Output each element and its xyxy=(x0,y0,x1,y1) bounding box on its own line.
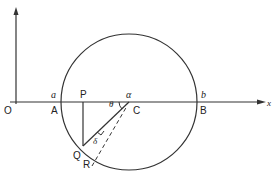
center-c-label: C xyxy=(133,105,140,116)
point-r-label: R xyxy=(83,159,90,170)
point-a-label: A xyxy=(51,105,58,116)
point-q-label: Q xyxy=(73,150,81,161)
y-axis xyxy=(14,7,19,104)
x-axis xyxy=(10,100,266,105)
point-p-label: P xyxy=(80,89,87,100)
segment-rc-dashed xyxy=(92,106,127,166)
delta-label: δ xyxy=(93,136,98,146)
y-axis-arrow-icon xyxy=(14,7,19,15)
x-axis-label: x xyxy=(266,98,271,108)
circle-geometry-diagram: O x a A P θ α C b B δ Q R xyxy=(0,0,274,176)
b-coord-label: b xyxy=(201,89,206,100)
alpha-coord-label: α xyxy=(126,89,132,100)
theta-arc-icon xyxy=(119,102,122,109)
origin-label: O xyxy=(4,105,12,116)
theta-label: θ xyxy=(109,99,114,109)
point-b-label: B xyxy=(200,105,207,116)
x-axis-arrow-icon xyxy=(257,100,266,105)
a-coord-label: a xyxy=(51,89,56,100)
